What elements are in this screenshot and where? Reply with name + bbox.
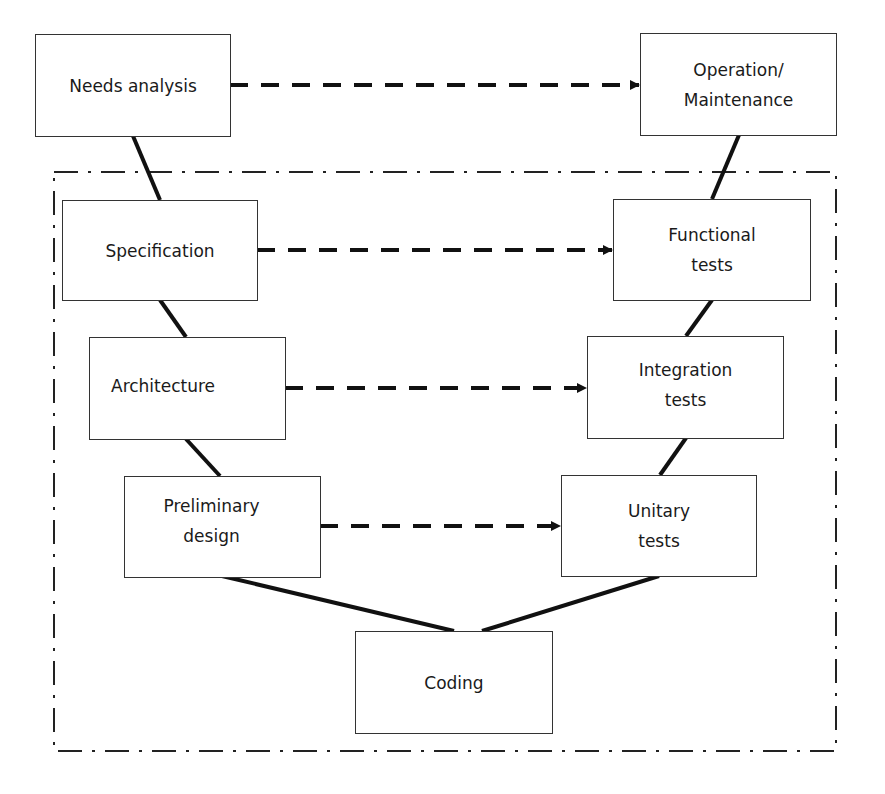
dashed-arrows	[230, 85, 639, 526]
node-specification: Specification	[62, 200, 258, 301]
node-label: Needs analysis	[69, 71, 197, 101]
node-label: tests	[638, 526, 680, 556]
node-needs-analysis: Needs analysis	[35, 34, 231, 137]
node-architecture: Architecture	[89, 337, 286, 440]
node-integration-tests: Integration tests	[587, 336, 784, 439]
node-label: Integration	[639, 355, 733, 385]
node-label: Operation/	[693, 55, 783, 85]
node-label: Functional	[668, 220, 755, 250]
node-label: Preliminary	[164, 491, 260, 521]
node-label: Unitary	[628, 496, 690, 526]
node-label: tests	[691, 250, 733, 280]
node-label: Maintenance	[684, 85, 793, 115]
node-label: Coding	[424, 668, 483, 698]
node-unitary-tests: Unitary tests	[561, 475, 757, 577]
node-operation-maintenance: Operation/ Maintenance	[640, 33, 837, 136]
node-label: Architecture	[111, 371, 285, 401]
node-functional-tests: Functional tests	[613, 199, 811, 301]
node-coding: Coding	[355, 631, 553, 734]
node-label: design	[183, 521, 239, 551]
node-label: tests	[665, 385, 707, 415]
node-preliminary-design: Preliminary design	[124, 476, 321, 578]
node-label: Specification	[105, 236, 214, 266]
